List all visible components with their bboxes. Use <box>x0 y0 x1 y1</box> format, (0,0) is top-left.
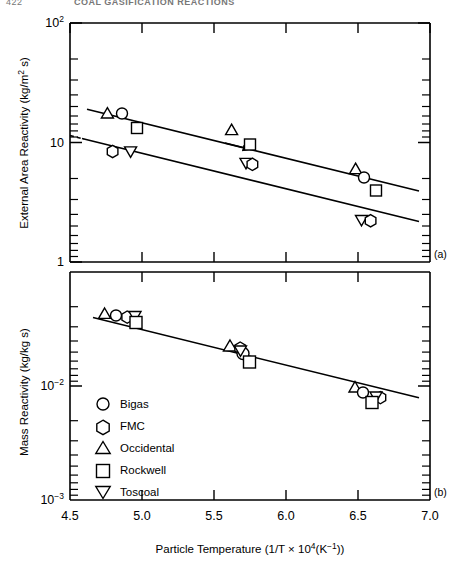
xaxis-title-unit-exp: −1 <box>327 541 337 551</box>
marker-rockwell <box>130 317 142 329</box>
xtick-label-3: 6.0 <box>277 509 294 523</box>
xaxis-title-unit-open: (K <box>316 543 328 555</box>
legend-label-rockwell: Rockwell <box>120 464 166 476</box>
ytick-label-100: 102 <box>45 14 64 30</box>
panel-a-markers <box>101 108 381 227</box>
panel-b: 10−2 10−3 Mass Reactivity (kg/kg s) <box>18 272 447 507</box>
ytick-label-1: 1 <box>57 255 64 269</box>
xaxis-title-main: Particle Temperature (1/T <box>156 543 289 555</box>
triangle-down-icon <box>96 487 110 499</box>
ytick-label-1e-2: 10−2 <box>40 377 64 393</box>
xtick-label-5: 7.0 <box>421 509 438 523</box>
legend-label-fmc: FMC <box>120 420 145 432</box>
marker-rockwell <box>245 139 256 150</box>
panel-a-yticklabels: 102 10 1 <box>45 14 64 269</box>
legend-item-bigas[interactable]: Bigas <box>97 398 149 410</box>
legend: Bigas FMC Occidental Rockwell Toscoal <box>96 398 175 499</box>
marker-occidental <box>226 124 238 134</box>
marker-rockwell <box>366 397 378 409</box>
ytick-label-1e-3: 10−3 <box>40 491 64 507</box>
marker-rockwell <box>244 356 256 368</box>
xaxis-title-mantissa: 10 <box>295 543 311 555</box>
figure-container: 422 COAL GASIFICATION REACTIONS <box>0 0 462 571</box>
xaxis-title-times: × <box>288 543 295 555</box>
circle-icon <box>97 398 109 410</box>
legend-item-fmc[interactable]: FMC <box>97 420 145 435</box>
legend-label-bigas: Bigas <box>120 398 149 410</box>
legend-item-rockwell[interactable]: Rockwell <box>97 464 167 478</box>
marker-rockwell <box>371 185 382 196</box>
panel-a-label: (a) <box>434 248 447 260</box>
marker-fmc <box>365 215 376 227</box>
chart-svg: 102 10 1 External Area Reactivity (kg/m2… <box>0 0 462 571</box>
xtick-label-4: 6.5 <box>349 509 366 523</box>
ytick-label-10: 10 <box>50 136 64 150</box>
page-number: 422 <box>6 0 23 7</box>
legend-label-occidental: Occidental <box>120 442 174 454</box>
square-icon <box>97 465 110 478</box>
marker-fmc <box>247 158 258 170</box>
marker-bigas <box>117 108 128 119</box>
legend-label-toscoal: Toscoal <box>120 486 159 498</box>
marker-bigas <box>359 172 370 183</box>
legend-item-toscoal[interactable]: Toscoal <box>96 486 159 499</box>
xaxis-title: Particle Temperature (1/T × 104(K−1)) <box>156 541 345 555</box>
marker-occidental <box>99 308 111 318</box>
panel-b-ylabel: Mass Reactivity (kg/kg s) <box>18 328 30 456</box>
marker-fmc <box>107 145 118 157</box>
xtick-label-1: 5.0 <box>133 509 150 523</box>
marker-rockwell <box>132 123 143 134</box>
marker-bigas <box>111 310 122 321</box>
panel-a: 102 10 1 External Area Reactivity (kg/m2… <box>16 14 447 269</box>
panel-b-yticklabels: 10−2 10−3 <box>40 377 64 507</box>
xtick-label-2: 5.5 <box>205 509 222 523</box>
marker-occidental <box>350 163 362 173</box>
panel-b-xticks <box>142 272 358 500</box>
xaxis-title-unit-close: )) <box>337 543 345 555</box>
legend-item-occidental[interactable]: Occidental <box>96 442 175 455</box>
xticklabels: 4.5 5.0 5.5 6.0 6.5 7.0 <box>61 509 438 523</box>
running-title: COAL GASIFICATION REACTIONS <box>74 0 235 7</box>
hexagon-icon <box>97 420 109 434</box>
panel-b-markers <box>99 308 386 409</box>
page-header: 422 COAL GASIFICATION REACTIONS <box>0 0 462 12</box>
xtick-label-0: 4.5 <box>61 509 78 523</box>
panel-a-ylabel: External Area Reactivity (kg/m2 s) <box>16 57 30 229</box>
panel-b-label: (b) <box>434 486 447 498</box>
triangle-up-icon <box>96 442 110 454</box>
